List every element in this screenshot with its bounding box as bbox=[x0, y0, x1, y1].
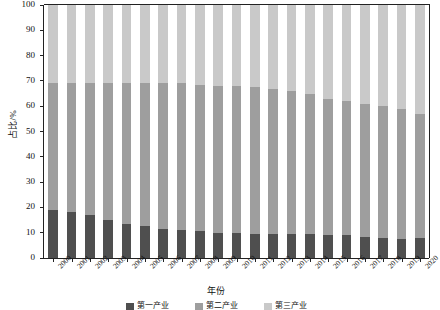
bar-2016 bbox=[342, 5, 352, 258]
legend-swatch-icon bbox=[195, 303, 203, 310]
bar-segment-第二产业 bbox=[48, 83, 58, 210]
x-tick-mark bbox=[365, 258, 366, 262]
bar-segment-第三产业 bbox=[342, 5, 352, 101]
bar-segment-第二产业 bbox=[397, 109, 407, 239]
x-tick-mark bbox=[237, 258, 238, 262]
bar-2019 bbox=[397, 5, 407, 258]
x-tick-mark bbox=[273, 258, 274, 262]
bar-series-group bbox=[44, 5, 429, 258]
x-tick-mark bbox=[347, 258, 348, 262]
bar-2005 bbox=[140, 5, 150, 258]
bar-segment-第二产业 bbox=[122, 83, 132, 223]
legend-label: 第一产业 bbox=[137, 301, 169, 310]
bar-2020 bbox=[415, 5, 425, 258]
bar-segment-第二产业 bbox=[360, 104, 370, 237]
y-tick-label: 0 bbox=[31, 252, 36, 263]
bar-segment-第二产业 bbox=[287, 91, 297, 234]
bar-segment-第二产业 bbox=[415, 114, 425, 238]
bar-segment-第二产业 bbox=[158, 83, 168, 228]
y-tick-label: 60 bbox=[26, 100, 35, 111]
y-tick-label: 30 bbox=[26, 176, 35, 187]
y-tick-label: 90 bbox=[26, 24, 35, 35]
x-tick-mark bbox=[328, 258, 329, 262]
y-tick-label: 10 bbox=[26, 227, 35, 238]
x-tick-mark bbox=[127, 258, 128, 262]
x-tick-mark bbox=[90, 258, 91, 262]
chart-legend: 第一产业第二产业第三产业 bbox=[0, 301, 433, 310]
x-tick-mark bbox=[200, 258, 201, 262]
bar-2013 bbox=[287, 5, 297, 258]
bar-segment-第二产业 bbox=[232, 86, 242, 233]
x-tick-mark bbox=[292, 258, 293, 262]
bar-2006 bbox=[158, 5, 168, 258]
legend-label: 第三产业 bbox=[275, 301, 307, 310]
y-tick-label: 70 bbox=[26, 75, 35, 86]
bar-segment-第三产业 bbox=[122, 5, 132, 83]
y-tick-label: 100 bbox=[22, 0, 36, 10]
x-tick-mark bbox=[53, 258, 54, 262]
bar-2009 bbox=[213, 5, 223, 258]
bar-segment-第三产业 bbox=[397, 5, 407, 109]
bar-segment-第二产业 bbox=[177, 83, 187, 230]
bar-segment-第二产业 bbox=[268, 89, 278, 234]
bar-segment-第三产业 bbox=[213, 5, 223, 86]
bar-segment-第三产业 bbox=[158, 5, 168, 83]
bar-segment-第二产业 bbox=[67, 83, 77, 212]
bar-segment-第三产业 bbox=[103, 5, 113, 83]
x-tick-mark bbox=[163, 258, 164, 262]
bar-segment-第一产业 bbox=[177, 230, 187, 258]
y-tick-label: 50 bbox=[26, 126, 35, 137]
bar-segment-第三产业 bbox=[85, 5, 95, 83]
x-tick-mark bbox=[145, 258, 146, 262]
x-tick-mark bbox=[108, 258, 109, 262]
bar-segment-第三产业 bbox=[195, 5, 205, 85]
plot-frame-right bbox=[429, 4, 430, 258]
x-tick-mark bbox=[218, 258, 219, 262]
legend-item-第三产业[interactable]: 第三产业 bbox=[264, 301, 307, 310]
bar-2004 bbox=[122, 5, 132, 258]
bar-segment-第三产业 bbox=[250, 5, 260, 87]
bar-2003 bbox=[103, 5, 113, 258]
plot-area: 0102030405060708090100 20002001200220032… bbox=[43, 5, 429, 259]
bar-2018 bbox=[378, 5, 388, 258]
bar-segment-第二产业 bbox=[342, 101, 352, 235]
bar-segment-第三产业 bbox=[378, 5, 388, 106]
bar-segment-第二产业 bbox=[378, 106, 388, 238]
bar-segment-第三产业 bbox=[268, 5, 278, 88]
legend-item-第一产业[interactable]: 第一产业 bbox=[126, 301, 169, 310]
bar-segment-第二产业 bbox=[85, 83, 95, 215]
bar-2011 bbox=[250, 5, 260, 258]
bar-2010 bbox=[232, 5, 242, 258]
bar-segment-第三产业 bbox=[67, 5, 77, 83]
bar-segment-第二产业 bbox=[195, 85, 205, 232]
x-tick-mark bbox=[72, 258, 73, 262]
bar-segment-第二产业 bbox=[250, 87, 260, 234]
bar-2000 bbox=[48, 5, 58, 258]
legend-swatch-icon bbox=[264, 303, 272, 310]
bar-2014 bbox=[305, 5, 315, 258]
x-tick-mark bbox=[383, 258, 384, 262]
y-tick-label: 40 bbox=[26, 151, 35, 162]
bar-segment-第三产业 bbox=[232, 5, 242, 86]
y-tick-label: 20 bbox=[26, 201, 35, 212]
y-axis-title: 占比/% bbox=[6, 95, 19, 155]
bar-segment-第二产业 bbox=[305, 94, 315, 235]
bar-2002 bbox=[85, 5, 95, 258]
bar-segment-第一产业 bbox=[85, 215, 95, 258]
bar-2007 bbox=[177, 5, 187, 258]
bar-segment-第二产业 bbox=[140, 83, 150, 226]
bar-segment-第一产业 bbox=[122, 224, 132, 258]
bar-2017 bbox=[360, 5, 370, 258]
bar-segment-第三产业 bbox=[287, 5, 297, 91]
bar-segment-第二产业 bbox=[103, 83, 113, 220]
x-tick-mark bbox=[420, 258, 421, 262]
bar-segment-第三产业 bbox=[360, 5, 370, 104]
legend-swatch-icon bbox=[126, 303, 134, 310]
bar-segment-第一产业 bbox=[67, 212, 77, 258]
x-tick-mark bbox=[182, 258, 183, 262]
bar-2001 bbox=[67, 5, 77, 258]
bar-segment-第三产业 bbox=[305, 5, 315, 94]
bar-segment-第一产业 bbox=[140, 226, 150, 258]
legend-item-第二产业[interactable]: 第二产业 bbox=[195, 301, 238, 310]
